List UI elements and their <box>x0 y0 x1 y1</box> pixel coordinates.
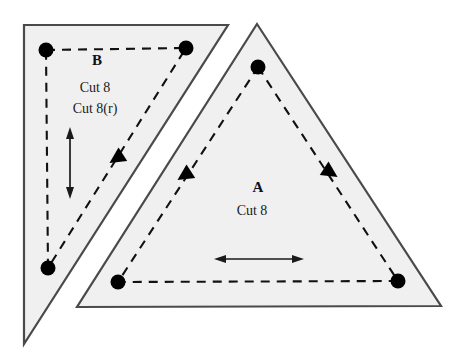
seam-dot-b-top-left <box>39 43 54 58</box>
piece-b-cut-label-1: Cut 8 <box>80 80 111 95</box>
seam-dot-a-apex <box>251 60 266 75</box>
piece-b-label: B <box>92 52 102 68</box>
piece-a-label: A <box>253 179 264 195</box>
diagram-canvas: B Cut 8 Cut 8(r) A Cut 8 <box>0 0 465 357</box>
piece-a-cut-label-1: Cut 8 <box>237 203 268 218</box>
seam-dot-a-bottom-left <box>111 275 126 290</box>
seam-dot-b-top-right <box>179 41 194 56</box>
seam-dot-b-bottom-left <box>41 261 56 276</box>
quilt-template-diagram: B Cut 8 Cut 8(r) A Cut 8 <box>0 0 465 357</box>
piece-b-cut-label-2: Cut 8(r) <box>73 101 118 117</box>
seam-dot-a-bottom-right <box>391 274 406 289</box>
